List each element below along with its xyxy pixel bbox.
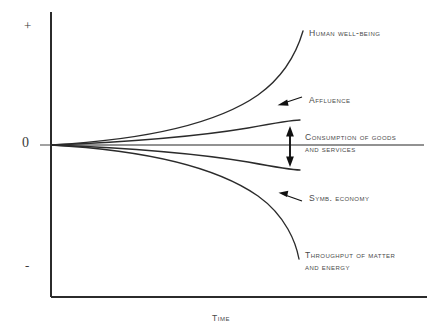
curve-human-wellbeing [51,31,303,145]
curve-label-affluence: Affluence [309,94,350,106]
symb-economy-leader-arrow [279,191,303,201]
y-axis-zero-marker: 0 [22,135,29,151]
y-axis-negative-marker: - [25,258,29,274]
curve-throughput [51,145,299,259]
affluence-leader-arrow [278,97,303,106]
consumption-label-line-2: and services [305,144,356,154]
curve-symb-economy [51,145,300,170]
curve-label-consumption: Consumption of goods and services [305,131,396,155]
chart-svg [0,0,446,335]
consumption-double-arrow [286,126,294,167]
curve-affluence [51,120,300,145]
y-axis-positive-marker: + [24,18,31,34]
throughput-label-line-2: and energy [305,262,350,272]
curve-label-throughput: Throughput of matter and energy [305,249,395,273]
curve-label-symb-economy: Symb. economy [309,192,369,204]
x-axis-label-time: Time [212,312,230,324]
curve-label-human-wellbeing: Human well-being [309,27,380,39]
figure-canvas: + 0 - Time Human well-being Affluence Co… [0,0,446,335]
throughput-label-line-1: Throughput of matter [305,250,395,260]
consumption-label-line-1: Consumption of goods [305,132,396,142]
